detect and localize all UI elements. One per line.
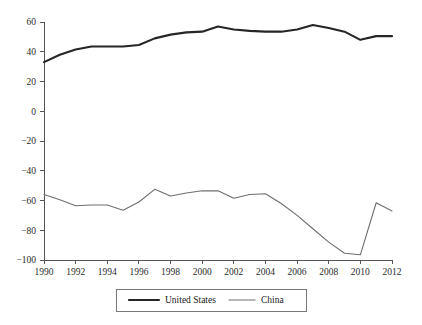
x-tick-label: 1992 (66, 267, 85, 277)
x-axis: 1990199219941996199820002002200420062008… (35, 260, 402, 277)
series-line-united-states (44, 25, 392, 62)
y-tick-label: −60 (21, 196, 36, 206)
chart-canvas: −100−80−60−40−200204060 1990199219941996… (0, 0, 422, 325)
x-tick-label: 2004 (256, 267, 275, 277)
legend-label-0: United States (165, 295, 216, 305)
x-tick-label: 1998 (161, 267, 180, 277)
line-chart: −100−80−60−40−200204060 1990199219941996… (0, 0, 422, 325)
y-tick-label: −20 (21, 136, 36, 146)
x-tick-label: 2006 (288, 267, 307, 277)
y-tick-label: −40 (21, 166, 36, 176)
x-tick-label: 2010 (351, 267, 370, 277)
y-tick-label: 60 (27, 17, 37, 27)
x-tick-label: 1994 (98, 267, 117, 277)
x-tick-group: 1990199219941996199820002002200420062008… (35, 260, 402, 277)
x-tick-label: 1990 (35, 267, 54, 277)
y-tick-group: −100−80−60−40−200204060 (16, 17, 44, 265)
series-line-china (44, 189, 392, 254)
x-tick-label: 2002 (224, 267, 243, 277)
x-tick-label: 2008 (319, 267, 338, 277)
legend-label-1: China (261, 295, 284, 305)
x-tick-label: 2000 (193, 267, 212, 277)
y-tick-label: 20 (27, 77, 37, 87)
series-group (44, 25, 392, 255)
x-tick-label: 2012 (383, 267, 402, 277)
y-tick-label: 0 (31, 107, 36, 117)
x-tick-label: 1996 (129, 267, 148, 277)
y-tick-label: 40 (27, 47, 37, 57)
y-axis: −100−80−60−40−200204060 (16, 17, 44, 265)
y-tick-label: −80 (21, 226, 36, 236)
chart-legend: United StatesChina (116, 289, 306, 311)
y-tick-label: −100 (16, 255, 36, 265)
